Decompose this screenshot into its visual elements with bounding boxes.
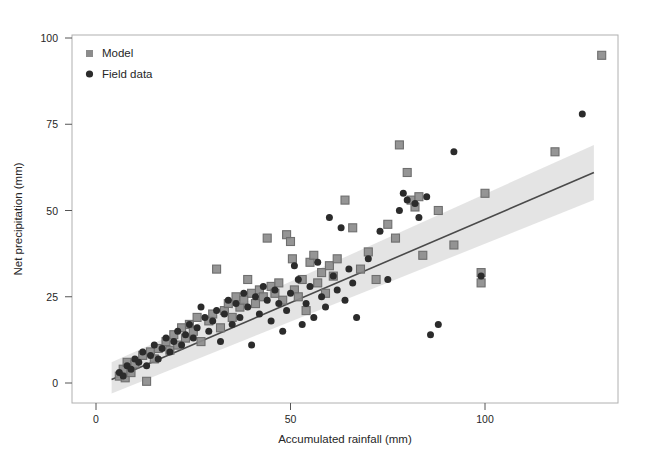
data-point xyxy=(333,255,341,263)
data-point xyxy=(240,296,248,304)
plot-canvas: 050100 0255075100 Accumulated rainfall (… xyxy=(0,0,659,456)
y-tick-label: 75 xyxy=(46,118,58,130)
data-point xyxy=(260,283,267,290)
data-point xyxy=(396,207,403,214)
data-point xyxy=(314,279,322,287)
data-point xyxy=(384,276,391,283)
data-point xyxy=(221,311,228,318)
data-point xyxy=(450,241,458,249)
data-point xyxy=(310,314,317,321)
data-point xyxy=(326,214,333,221)
data-point xyxy=(307,283,314,290)
data-point xyxy=(357,265,365,273)
data-point xyxy=(139,348,146,355)
data-point xyxy=(287,238,295,246)
data-point xyxy=(198,304,205,311)
data-point xyxy=(392,234,400,242)
data-point xyxy=(252,293,259,300)
x-tick-label: 50 xyxy=(285,413,297,425)
data-point xyxy=(303,300,310,307)
data-point xyxy=(295,276,302,283)
data-point xyxy=(151,342,158,349)
data-point xyxy=(353,314,360,321)
data-point xyxy=(318,269,326,277)
data-point xyxy=(264,297,271,304)
data-point xyxy=(193,313,201,321)
data-point xyxy=(268,317,275,324)
data-point xyxy=(419,251,427,259)
data-point xyxy=(434,207,442,215)
data-point xyxy=(423,193,430,200)
data-point xyxy=(163,335,170,342)
data-point xyxy=(450,148,457,155)
y-tick-label: 100 xyxy=(40,32,58,44)
data-point xyxy=(263,234,271,242)
data-point xyxy=(240,290,247,297)
data-point xyxy=(225,297,232,304)
data-point xyxy=(384,220,392,228)
data-point xyxy=(217,338,224,345)
data-point xyxy=(334,286,341,293)
data-point xyxy=(551,148,559,156)
x-tick-label: 0 xyxy=(93,413,99,425)
figure-background xyxy=(0,0,659,456)
data-point xyxy=(194,324,201,331)
data-point xyxy=(325,262,333,270)
y-tick-label: 25 xyxy=(46,291,58,303)
legend-marker-model xyxy=(86,50,93,57)
data-point xyxy=(213,265,221,273)
data-point xyxy=(330,273,337,280)
data-point xyxy=(283,307,290,314)
data-point xyxy=(310,251,318,259)
data-point xyxy=(400,190,407,197)
data-point xyxy=(271,286,278,293)
data-point xyxy=(314,259,321,266)
data-point xyxy=(166,348,173,355)
data-point xyxy=(248,342,255,349)
data-point xyxy=(217,324,225,332)
data-point xyxy=(244,304,251,311)
data-point xyxy=(159,345,166,352)
data-point xyxy=(579,110,586,117)
data-point xyxy=(318,293,325,300)
data-point xyxy=(377,228,384,235)
data-point xyxy=(213,307,220,314)
data-point xyxy=(275,279,283,287)
y-axis-title: Net precipitation (mm) xyxy=(12,162,24,275)
data-point xyxy=(299,321,306,328)
y-tick-label: 50 xyxy=(46,205,58,217)
data-point xyxy=(372,276,380,284)
data-point xyxy=(294,293,302,301)
data-point xyxy=(205,328,212,335)
data-point xyxy=(209,317,216,324)
data-point xyxy=(252,300,260,308)
data-point xyxy=(147,352,154,359)
data-point xyxy=(279,328,286,335)
x-tick-label: 100 xyxy=(476,413,494,425)
data-point xyxy=(170,338,177,345)
data-point xyxy=(174,328,181,335)
data-point xyxy=(478,273,485,280)
data-point xyxy=(143,362,150,369)
data-point xyxy=(302,307,310,315)
data-point xyxy=(236,314,243,321)
data-point xyxy=(256,311,263,318)
data-point xyxy=(395,141,403,149)
data-point xyxy=(403,169,411,177)
data-point xyxy=(120,373,127,380)
data-point xyxy=(364,248,372,256)
data-point xyxy=(349,279,356,286)
data-point xyxy=(365,255,372,262)
data-point xyxy=(233,300,240,307)
data-point xyxy=(322,304,329,311)
data-point xyxy=(404,197,411,204)
data-point xyxy=(412,200,419,207)
data-point xyxy=(598,51,606,59)
legend-label-model: Model xyxy=(102,47,133,59)
data-point xyxy=(481,189,489,197)
data-point xyxy=(477,279,485,287)
data-point xyxy=(135,359,142,366)
data-point xyxy=(143,377,151,385)
data-point xyxy=(427,331,434,338)
legend-marker-field-data xyxy=(86,70,93,77)
